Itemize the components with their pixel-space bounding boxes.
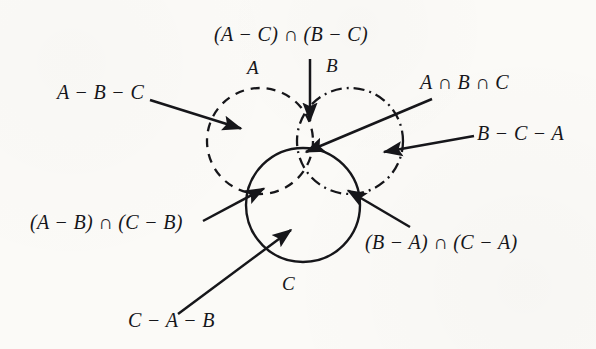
label-a-intersect-b-intersect-c: A ∩ B ∩ C xyxy=(420,72,509,92)
arrow-a-minus-b-minus-c xyxy=(150,100,241,129)
venn-diagram-svg xyxy=(0,0,596,349)
arrow-b-minus-c-minus-a xyxy=(384,136,474,152)
figure-canvas: (A − C) ∩ (B − C) A B A − B − C A ∩ B ∩ … xyxy=(0,0,596,349)
label-b-minus-a-intersect-c-minus-a: (B − A) ∩ (C − A) xyxy=(365,232,517,252)
arrow-c-minus-a-minus-b xyxy=(178,230,291,314)
label-set-b: B xyxy=(326,56,338,75)
label-c-minus-a-minus-b: C − A − B xyxy=(128,310,215,330)
label-b-minus-c-minus-a: B − C − A xyxy=(477,123,564,143)
label-a-minus-b-intersect-c-minus-b: (A − B) ∩ (C − B) xyxy=(30,212,183,232)
label-a-minus-b-minus-c: A − B − C xyxy=(57,82,144,102)
label-a-minus-c-intersect-b-minus-c: (A − C) ∩ (B − C) xyxy=(214,24,368,44)
arrow-a-int-b-int-c xyxy=(306,99,432,152)
label-set-c: C xyxy=(282,274,295,293)
label-set-a: A xyxy=(247,58,259,77)
arrow-a-minus-b-int-c-minus-b xyxy=(203,189,264,222)
